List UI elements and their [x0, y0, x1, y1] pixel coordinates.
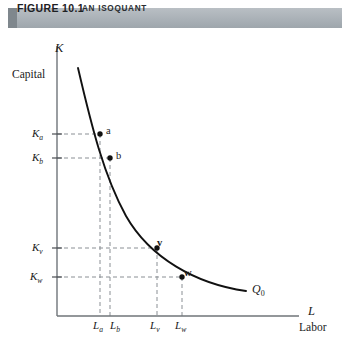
curve-label-subscript: 0 — [261, 289, 265, 298]
y-tick-label-v: Kv — [32, 242, 43, 253]
isoquant-plot — [0, 0, 350, 355]
y-axis-name: Capital — [12, 69, 45, 81]
y-tick-label-b: Kb — [32, 152, 43, 163]
curve-label-symbol: Q — [252, 282, 261, 296]
x-tick-sub-w: w — [181, 325, 186, 334]
x-tick-sub-b: b — [116, 325, 120, 334]
y-axis-symbol: K — [55, 42, 63, 55]
point-marker-b — [107, 155, 112, 160]
y-tick-label-a: Ka — [32, 128, 43, 139]
x-axis-symbol: L — [308, 305, 315, 318]
y-tick-sub-w: w — [37, 276, 42, 285]
y-tick-sub-b: b — [39, 157, 43, 166]
y-tick-label-w: Kw — [30, 271, 42, 282]
x-axis-name: Labor — [299, 322, 326, 334]
isoquant-curve — [78, 68, 246, 291]
x-tick-label-w: Lw — [175, 320, 186, 331]
x-tick-label-b: Lb — [110, 320, 120, 331]
y-tick-sub-v: v — [39, 247, 42, 256]
point-marker-a — [97, 131, 102, 136]
x-tick-label-a: La — [93, 320, 103, 331]
point-label-a: a — [106, 126, 111, 137]
point-label-v: v — [157, 238, 162, 249]
point-label-w: w — [184, 268, 192, 279]
x-tick-sub-a: a — [99, 325, 103, 334]
curve-label-q0: Q0 — [252, 283, 265, 295]
x-tick-label-v: Lv — [150, 320, 160, 331]
guide-lines-vertical — [100, 134, 182, 316]
y-tick-sub-a: a — [39, 133, 43, 142]
point-label-b: b — [116, 151, 121, 162]
figure-container: FIGURE 10.1 AN ISOQUANT — [0, 0, 350, 355]
x-tick-sub-v: v — [156, 325, 159, 334]
